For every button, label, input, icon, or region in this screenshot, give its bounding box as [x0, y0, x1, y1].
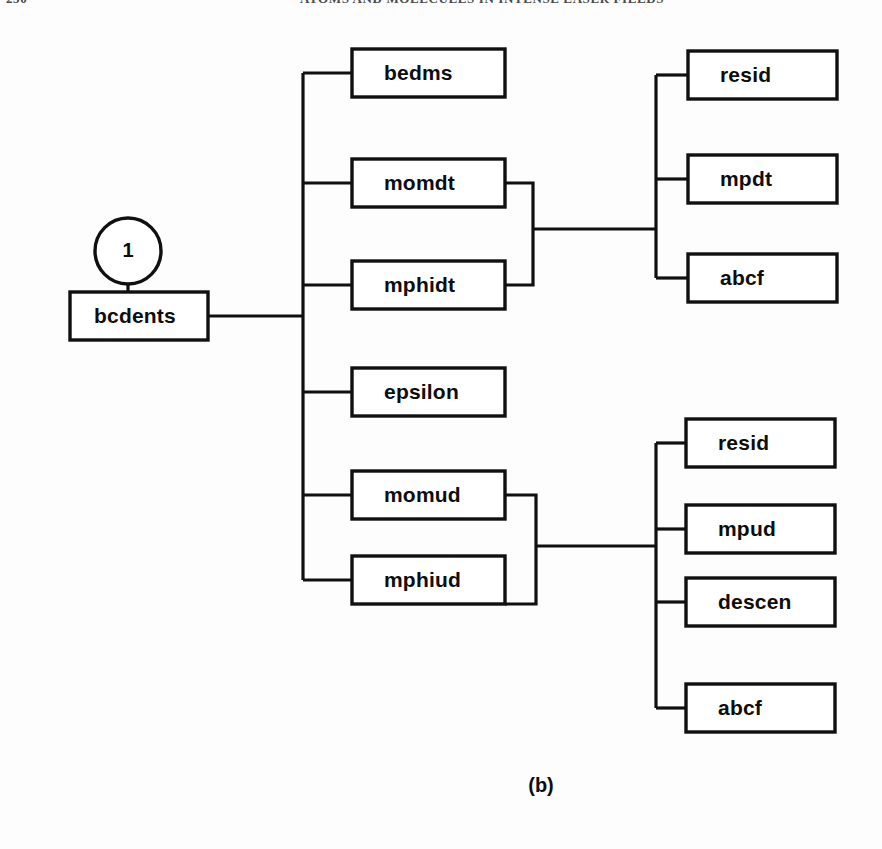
node-mphiud-label: mphiud [384, 568, 461, 591]
marker-label: 1 [122, 239, 133, 261]
node-resid-top-label: resid [720, 63, 771, 86]
figure-caption: (b) [528, 774, 554, 796]
node-resid-top[interactable]: resid [688, 51, 837, 99]
node-mpdt[interactable]: mpdt [688, 155, 837, 203]
tree-diagram: 1 bcdents bedms momdt mphidt epsilon mom… [0, 0, 882, 849]
node-mpud[interactable]: mpud [686, 505, 835, 553]
node-abcf-bottom[interactable]: abcf [686, 684, 835, 732]
node-marker-1[interactable]: 1 [95, 218, 161, 284]
node-bcdents-label: bcdents [94, 304, 176, 327]
node-mphiud[interactable]: mphiud [352, 556, 505, 604]
bracket-momud-mphiud [505, 495, 536, 604]
node-bcdents[interactable]: bcdents [70, 292, 208, 340]
node-descen[interactable]: descen [686, 578, 835, 626]
node-mphidt-label: mphidt [384, 273, 455, 296]
node-bedms-label: bedms [384, 61, 453, 84]
node-momud-label: momud [384, 483, 461, 506]
node-mpdt-label: mpdt [720, 167, 772, 190]
figure-page: 250 ATOMS AND MOLECULES IN INTENSE LASER… [0, 0, 882, 849]
node-abcf-top-label: abcf [720, 266, 765, 289]
bracket-momdt-mphidt [505, 183, 533, 285]
node-mpud-label: mpud [718, 517, 776, 540]
node-bedms[interactable]: bedms [352, 49, 505, 97]
node-mphidt[interactable]: mphidt [352, 261, 505, 309]
node-resid-bottom-label: resid [718, 431, 769, 454]
node-abcf-bottom-label: abcf [718, 696, 763, 719]
node-momud[interactable]: momud [352, 471, 505, 519]
node-resid-bottom[interactable]: resid [686, 419, 835, 467]
node-abcf-top[interactable]: abcf [688, 254, 837, 302]
node-epsilon[interactable]: epsilon [352, 368, 505, 416]
node-descen-label: descen [718, 590, 792, 613]
node-momdt[interactable]: momdt [352, 159, 505, 207]
node-momdt-label: momdt [384, 171, 455, 194]
node-epsilon-label: epsilon [384, 380, 459, 403]
